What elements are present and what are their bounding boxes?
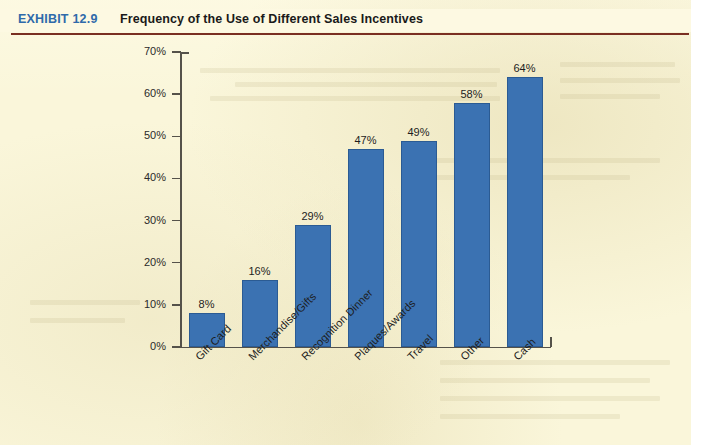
y-axis-tick-label: 70% xyxy=(120,45,166,57)
bar[interactable] xyxy=(454,103,490,347)
bar-value-label: 58% xyxy=(445,88,498,100)
y-axis-tick-label: 40% xyxy=(120,171,166,183)
exhibit-number: 12.9 xyxy=(72,12,97,26)
y-axis-tick-label: 60% xyxy=(120,87,166,99)
exhibit-tag-label: EXHIBIT xyxy=(18,12,69,26)
bar-value-label: 47% xyxy=(339,134,392,146)
y-axis-tick-label: 0% xyxy=(120,340,166,352)
y-axis-tick-label: 50% xyxy=(120,129,166,141)
y-axis-tick-label: 20% xyxy=(120,256,166,268)
exhibit-title: Frequency of the Use of Different Sales … xyxy=(120,12,423,26)
bar-chart: 0%10%20%30%40%50%60%70% 8%16%29%47%49%58… xyxy=(0,40,691,445)
exhibit-page: EXHIBIT 12.9 Frequency of the Use of Dif… xyxy=(0,0,710,445)
y-axis-tick-label: 10% xyxy=(120,298,166,310)
bar-value-label: 16% xyxy=(233,265,286,277)
bar-slot: 64% xyxy=(498,52,551,347)
bar-slot: 49% xyxy=(392,52,445,347)
bar-value-label: 29% xyxy=(286,210,339,222)
y-axis-tick-label: 30% xyxy=(120,214,166,226)
bar[interactable] xyxy=(507,77,543,347)
exhibit-header-bar: EXHIBIT 12.9 Frequency of the Use of Dif… xyxy=(0,9,691,32)
title-divider-rule xyxy=(11,33,689,35)
bar-value-label: 64% xyxy=(498,62,551,74)
bar[interactable] xyxy=(348,149,384,347)
exhibit-tag: EXHIBIT 12.9 xyxy=(18,12,98,26)
bar-slot: 58% xyxy=(445,52,498,347)
bar-value-label: 8% xyxy=(180,298,233,310)
bar-value-label: 49% xyxy=(392,126,445,138)
bar-slot: 8% xyxy=(180,52,233,347)
bar-slot: 16% xyxy=(233,52,286,347)
